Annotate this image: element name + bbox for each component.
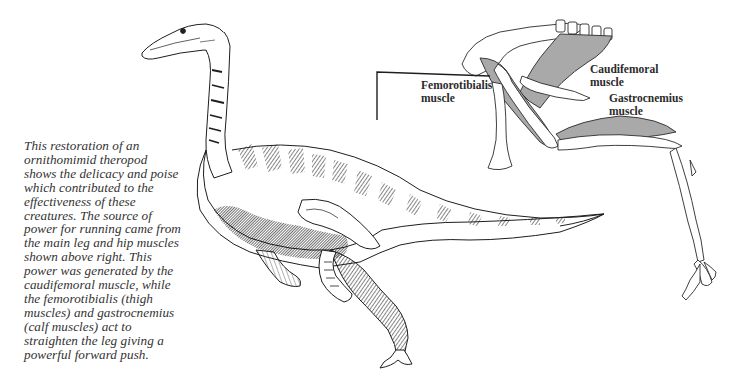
book-page: Femorotibialis muscle Caudifemoral muscl…	[0, 0, 732, 379]
caption-line: which contributed to the	[24, 181, 224, 195]
caption-line: effectiveness of these	[24, 195, 224, 209]
figure-caption: This restoration of an ornithomimid ther…	[24, 139, 224, 362]
label-gastrocnemius-line1: Gastrocnemius	[609, 92, 683, 105]
caption-line: shows the delicacy and poise	[24, 167, 224, 181]
caption-line: creatures. The source of	[24, 209, 224, 223]
caption-line: This restoration of an	[24, 139, 224, 153]
label-caudifemoral-line1: Caudifemoral	[590, 63, 658, 76]
caption-line: ornithomimid theropod	[24, 153, 224, 167]
caption-line: the main leg and hip muscles	[24, 236, 224, 250]
label-caudifemoral-line2: muscle	[590, 76, 658, 89]
caption-line: straighten the leg giving a	[24, 334, 224, 348]
caption-line: muscles) and gastrocnemius	[24, 306, 224, 320]
caption-line: power for running came from	[24, 222, 224, 236]
label-gastrocnemius-line2: muscle	[609, 105, 683, 118]
label-femorotibialis-line2: muscle	[421, 92, 492, 105]
caption-line: shown above right. This	[24, 250, 224, 264]
label-femorotibialis: Femorotibialis muscle	[421, 79, 492, 104]
caption-line: power was generated by the	[24, 264, 224, 278]
label-caudifemoral: Caudifemoral muscle	[590, 63, 658, 88]
hip-leg-muscle-diagram	[462, 20, 716, 300]
label-gastrocnemius: Gastrocnemius muscle	[609, 92, 683, 117]
caption-line: powerful forward push.	[24, 348, 224, 362]
caption-line: the femorotibialis (thigh	[24, 292, 224, 306]
caption-line: caudifemoral muscle, while	[24, 278, 224, 292]
label-femorotibialis-line1: Femorotibialis	[421, 79, 492, 92]
caption-line: (calf muscles) act to	[24, 320, 224, 334]
